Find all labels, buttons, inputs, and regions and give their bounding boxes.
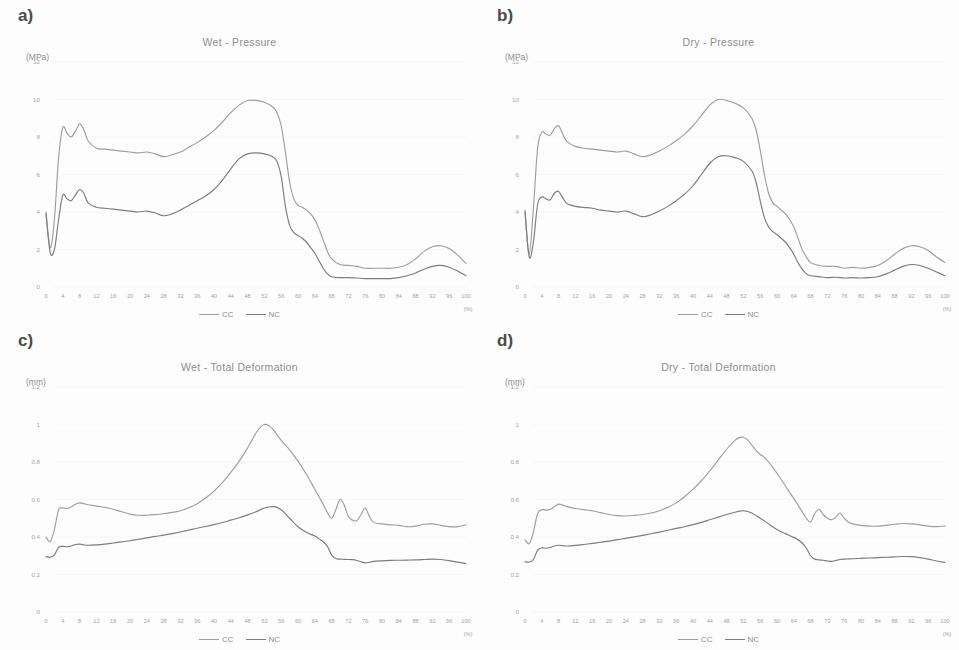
x-tick-label: 68 (807, 293, 813, 299)
series-line-cc[interactable] (525, 99, 945, 268)
x-tick-label: 48 (723, 618, 729, 624)
x-tick-label: 40 (690, 293, 696, 299)
x-tick-label: 92 (908, 618, 914, 624)
y-tick-label: 0.6 (31, 496, 40, 503)
x-tick-label: 44 (707, 618, 713, 624)
x-tick-label: 48 (244, 618, 250, 624)
x-tick-label: 76 (841, 618, 847, 624)
series-line-cc[interactable] (46, 424, 466, 541)
legend-entry-cc[interactable]: CC (199, 635, 234, 644)
panel-b: b) Dry - Pressure (MPa) 1210864200481216… (479, 0, 958, 325)
x-tick-label: 44 (707, 293, 713, 299)
x-tick-label: 92 (908, 293, 914, 299)
x-tick-label: 32 (656, 618, 662, 624)
y-tick-label: 1.2 (31, 383, 40, 390)
x-tick-label: 60 (774, 293, 780, 299)
y-tick-label: 0.2 (510, 571, 519, 578)
series-line-nc[interactable] (525, 511, 945, 563)
y-tick-label: 0.4 (510, 533, 519, 540)
legend-entry-cc[interactable]: CC (199, 310, 234, 319)
legend-entry-cc[interactable]: CC (678, 310, 713, 319)
x-tick-label: 80 (379, 293, 385, 299)
legend-swatch-nc (246, 639, 266, 640)
x-tick-label: 100 (940, 293, 949, 299)
legend-entry-nc[interactable]: NC (246, 635, 281, 644)
series-line-nc[interactable] (525, 156, 945, 278)
y-tick-label: 10 (33, 96, 40, 103)
x-tick-label: 36 (673, 293, 679, 299)
x-tick-label: 28 (639, 293, 645, 299)
x-tick-label: 8 (78, 293, 81, 299)
x-tick-label: 88 (891, 293, 897, 299)
legend-entry-cc[interactable]: CC (678, 635, 713, 644)
legend-label-nc: NC (748, 310, 760, 319)
legend-entry-nc[interactable]: NC (725, 635, 760, 644)
series-line-cc[interactable] (46, 100, 466, 268)
x-tick-label: 52 (740, 618, 746, 624)
y-tick-label: 10 (512, 96, 519, 103)
x-tick-label: 8 (78, 618, 81, 624)
x-tick-label: 28 (160, 293, 166, 299)
x-tick-label: 72 (824, 618, 830, 624)
x-tick-label: 24 (623, 618, 629, 624)
x-tick-label: 0 (44, 293, 47, 299)
x-tick-label: 68 (328, 618, 334, 624)
series-line-nc[interactable] (46, 153, 466, 279)
panel-a-plot: 1210864200481216202428323640444852566064… (0, 0, 479, 325)
legend-swatch-nc (246, 314, 266, 315)
series-line-nc[interactable] (46, 507, 466, 564)
panel-d: d) Dry - Total Deformation (mm) 1.210.80… (479, 325, 958, 650)
x-tick-label: 0 (44, 618, 47, 624)
y-tick-label: 4 (37, 208, 41, 215)
y-tick-label: 2 (516, 246, 520, 253)
x-tick-label: 68 (328, 293, 334, 299)
x-tick-label: 36 (194, 293, 200, 299)
x-tick-label: 80 (858, 618, 864, 624)
x-tick-label: 48 (244, 293, 250, 299)
x-tick-label: 76 (362, 618, 368, 624)
x-tick-label: 52 (261, 293, 267, 299)
x-tick-label: 16 (589, 618, 595, 624)
series-line-cc[interactable] (525, 437, 945, 544)
x-tick-label: 32 (656, 293, 662, 299)
x-tick-label: 36 (673, 618, 679, 624)
x-tick-label: 60 (295, 618, 301, 624)
legend-label-nc: NC (269, 635, 281, 644)
x-tick-label: 68 (807, 618, 813, 624)
x-tick-label: 84 (396, 293, 402, 299)
x-tick-label: 12 (93, 293, 99, 299)
x-tick-label: 8 (557, 293, 560, 299)
x-tick-label: 76 (362, 293, 368, 299)
y-tick-label: 4 (516, 208, 520, 215)
legend-swatch-nc (725, 314, 745, 315)
x-tick-label: 72 (345, 293, 351, 299)
x-tick-label: 96 (925, 618, 931, 624)
x-tick-label: 60 (295, 293, 301, 299)
panel-b-legend: CCNC (479, 310, 958, 319)
x-tick-label: 88 (891, 618, 897, 624)
y-tick-label: 1 (516, 421, 520, 428)
x-tick-label: 88 (412, 618, 418, 624)
x-tick-label: 28 (639, 618, 645, 624)
legend-entry-nc[interactable]: NC (725, 310, 760, 319)
y-tick-label: 0.2 (31, 571, 40, 578)
legend-swatch-cc (199, 639, 219, 640)
x-tick-label: 4 (61, 618, 64, 624)
x-tick-label: 24 (144, 293, 150, 299)
x-tick-label: 16 (110, 293, 116, 299)
x-tick-label: 12 (572, 618, 578, 624)
y-tick-label: 0 (516, 283, 520, 290)
x-tick-label: 64 (791, 618, 797, 624)
x-tick-label: 24 (144, 618, 150, 624)
legend-label-cc: CC (701, 310, 713, 319)
x-tick-label: 40 (211, 293, 217, 299)
y-tick-label: 0.8 (31, 458, 40, 465)
legend-entry-nc[interactable]: NC (246, 310, 281, 319)
x-tick-label: 44 (228, 618, 234, 624)
x-tick-label: 52 (740, 293, 746, 299)
x-tick-label: 32 (177, 293, 183, 299)
figure-container: a) Wet - Pressure (MPa) 1210864200481216… (0, 0, 959, 650)
x-tick-label: 16 (110, 618, 116, 624)
x-tick-label: 80 (858, 293, 864, 299)
x-tick-label: 84 (875, 293, 881, 299)
